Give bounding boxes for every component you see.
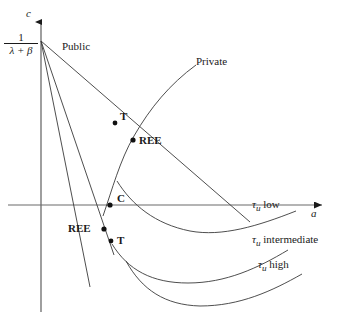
- fraction-numerator: 1: [4, 31, 38, 43]
- tau-subscript: u: [262, 263, 267, 273]
- economics-diagram: c a 1 λ + β Public Private T REE C REE T…: [0, 0, 339, 325]
- point-T-upper: [113, 121, 118, 126]
- y-intercept-value: 1 λ + β: [4, 31, 38, 56]
- tau-high-level: high: [269, 258, 289, 270]
- point-REE-lower: [101, 226, 106, 231]
- point-T-lower: [109, 239, 114, 244]
- y-axis-label: c: [26, 8, 31, 19]
- label-T-lower: T: [117, 235, 124, 246]
- label-C: C: [117, 193, 125, 204]
- label-T-upper: T: [120, 111, 127, 122]
- diagram-canvas: [0, 0, 339, 325]
- tau-low-label: τu low: [252, 199, 280, 213]
- tau-low-level: low: [263, 198, 280, 210]
- public-label: Public: [62, 41, 90, 52]
- x-axis-label: a: [311, 208, 317, 219]
- tau-high-label: τu high: [258, 259, 289, 273]
- tau-intermediate-level: intermediate: [263, 233, 318, 245]
- tau-subscript: u: [256, 203, 261, 213]
- fraction-denominator: λ + β: [4, 43, 38, 56]
- point-REE-upper: [130, 137, 135, 142]
- tau-subscript: u: [256, 238, 261, 248]
- tau-intermediate-label: τu intermediate: [252, 234, 318, 248]
- label-REE-lower: REE: [68, 223, 91, 234]
- private-label: Private: [196, 56, 227, 67]
- public-line-flat: [41, 41, 250, 222]
- point-C: [107, 202, 112, 207]
- label-REE-upper: REE: [139, 135, 162, 146]
